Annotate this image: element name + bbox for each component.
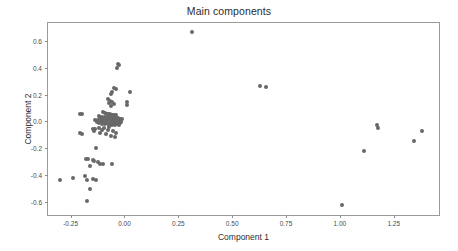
x-axis-tick-label: 0.25 <box>172 220 185 227</box>
scatter-point <box>85 178 89 182</box>
scatter-point <box>114 131 118 135</box>
scatter-point <box>119 120 123 124</box>
scatter-point <box>128 90 132 94</box>
y-axis-tick <box>45 41 48 42</box>
y-axis-tick <box>45 202 48 203</box>
x-axis-tick <box>124 215 125 218</box>
scatter-point <box>113 135 117 139</box>
y-axis-tick <box>45 175 48 176</box>
y-axis-tick-label: -0.6 <box>31 198 42 205</box>
y-axis-tick-label: 0.2 <box>33 91 42 98</box>
scatter-point <box>109 104 113 108</box>
y-axis-tick-label: 0.0 <box>33 118 42 125</box>
x-axis-tick <box>394 215 395 218</box>
scatter-point <box>71 176 75 180</box>
y-axis-tick-label: 0.4 <box>33 64 42 71</box>
x-axis-tick <box>71 215 72 218</box>
x-axis-tick-label: 0.00 <box>118 220 131 227</box>
scatter-point <box>420 129 424 133</box>
x-axis-tick-label: -0.25 <box>63 220 78 227</box>
scatter-point <box>88 187 92 191</box>
chart-title: Main components <box>0 5 458 17</box>
scatter-point <box>58 178 62 182</box>
scatter-point <box>94 178 98 182</box>
x-axis-tick <box>340 215 341 218</box>
y-axis-label: Component 2 <box>23 93 33 144</box>
x-axis-tick <box>178 215 179 218</box>
y-axis-tick <box>45 148 48 149</box>
scatter-point <box>376 126 380 130</box>
scatter-point <box>115 66 119 70</box>
x-axis-tick-label: 1.25 <box>387 220 400 227</box>
scatter-point <box>80 112 84 116</box>
scatter-points-layer <box>48 23 439 215</box>
scatter-point <box>264 85 268 89</box>
scatter-point <box>109 92 113 96</box>
y-axis-tick <box>45 68 48 69</box>
x-axis-tick-label: 0.75 <box>280 220 293 227</box>
x-axis-tick <box>286 215 287 218</box>
scatter-point <box>412 139 416 143</box>
scatter-point <box>340 203 344 207</box>
scatter-point <box>85 199 89 203</box>
x-axis-tick-label: 1.00 <box>334 220 347 227</box>
scatter-point <box>110 162 114 166</box>
scatter-point <box>258 84 262 88</box>
scatter-point <box>114 87 118 91</box>
scatter-point <box>362 149 366 153</box>
scatter-point <box>80 132 84 136</box>
scatter-point <box>125 103 129 107</box>
x-axis-tick <box>232 215 233 218</box>
y-axis-tick <box>45 121 48 122</box>
scatter-point <box>94 146 98 150</box>
plot-area: -0.250.000.250.500.751.001.250.60.40.20.… <box>47 22 440 216</box>
y-axis-tick-label: -0.2 <box>31 145 42 152</box>
scatter-point <box>104 132 108 136</box>
y-axis-tick-label: -0.4 <box>31 171 42 178</box>
x-axis-tick-label: 0.50 <box>226 220 239 227</box>
y-axis-tick-label: 0.6 <box>33 38 42 45</box>
scatter-point <box>83 174 87 178</box>
x-axis-label: Component 1 <box>47 232 440 242</box>
scatter-point <box>101 162 105 166</box>
scatter-point <box>88 164 92 168</box>
scatter-plot-figure: Main components -0.250.000.250.500.751.0… <box>0 0 458 251</box>
y-axis-tick <box>45 95 48 96</box>
scatter-point <box>86 157 90 161</box>
scatter-point <box>190 30 194 34</box>
